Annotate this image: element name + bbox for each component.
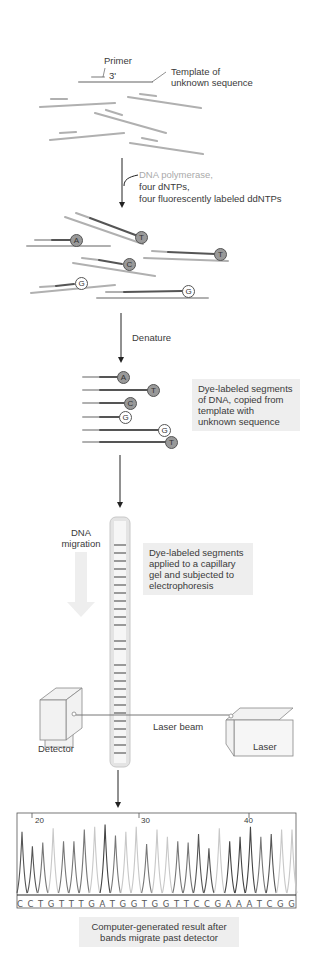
chromatogram-frame bbox=[17, 813, 296, 908]
template-leader-line bbox=[152, 72, 166, 82]
base-c: C bbox=[204, 899, 210, 909]
template-label: Template of unknown sequence bbox=[171, 66, 253, 88]
segments-caption: Dye-labeled segments of DNA, copied from… bbox=[192, 379, 300, 431]
base-t: T bbox=[69, 899, 74, 909]
tick-label-30: 30 bbox=[141, 815, 150, 826]
dye-label-c-icon: C bbox=[124, 397, 137, 410]
primer-leader-line bbox=[103, 68, 105, 77]
base-t: T bbox=[78, 899, 83, 909]
base-c: C bbox=[28, 899, 34, 909]
primer-label: Primer bbox=[104, 55, 132, 66]
base-a: A bbox=[246, 899, 252, 909]
tick-label-40: 40 bbox=[244, 815, 253, 826]
result-caption: Computer-generated result after bands mi… bbox=[79, 917, 239, 947]
base-t: T bbox=[142, 899, 147, 909]
base-g: G bbox=[288, 899, 295, 909]
dna-migration-label: DNA migration bbox=[60, 527, 102, 549]
migration-arrow-icon bbox=[67, 552, 95, 617]
dye-label-t-icon: T bbox=[147, 384, 160, 397]
base-a: A bbox=[226, 899, 232, 909]
base-c: C bbox=[193, 899, 199, 909]
denature-label: Denature bbox=[132, 332, 171, 343]
base-t: T bbox=[174, 899, 179, 909]
base-t: T bbox=[184, 899, 189, 909]
gel-bands bbox=[114, 545, 126, 753]
dye-label-g-icon: G bbox=[158, 424, 171, 437]
dye-label-a-icon: A bbox=[70, 234, 83, 247]
dye-label-g-icon: G bbox=[119, 411, 132, 424]
base-a: A bbox=[99, 899, 105, 909]
dye-label-g-icon: G bbox=[182, 285, 195, 298]
base-g: G bbox=[131, 899, 138, 909]
sanger-sequencing-diagram bbox=[0, 0, 320, 962]
base-a: A bbox=[236, 899, 242, 909]
dye-label-t-icon: T bbox=[165, 436, 178, 449]
dye-label-c-icon: C bbox=[123, 258, 136, 271]
base-g: G bbox=[277, 899, 284, 909]
electrophoresis-caption: Dye-labeled segments applied to a capill… bbox=[143, 543, 253, 595]
laser-beam-label: Laser beam bbox=[153, 721, 203, 732]
template-strands bbox=[40, 77, 203, 154]
base-t: T bbox=[110, 899, 115, 909]
primer-3prime-label: 3' bbox=[109, 70, 116, 81]
base-g: G bbox=[163, 899, 170, 909]
reagents-label: DNA polymerase, four dNTPs, four fluores… bbox=[139, 169, 282, 205]
base-c: C bbox=[267, 899, 273, 909]
laser-label: Laser bbox=[253, 741, 277, 752]
dye-label-g-icon: G bbox=[75, 277, 88, 290]
detector-icon bbox=[40, 688, 82, 747]
base-g: G bbox=[214, 899, 221, 909]
dye-label-t-icon: T bbox=[214, 248, 227, 261]
dye-label-t-icon: T bbox=[135, 231, 148, 244]
base-t: T bbox=[257, 899, 262, 909]
base-g: G bbox=[88, 899, 95, 909]
detector-label: Detector bbox=[38, 743, 74, 754]
base-g: G bbox=[120, 899, 127, 909]
base-t: T bbox=[59, 899, 64, 909]
base-g: G bbox=[48, 899, 55, 909]
extended-strands bbox=[27, 213, 228, 298]
base-sequence: CCTGTTTGATGGTGGTTCCGAAATCGG bbox=[17, 899, 295, 909]
base-c: C bbox=[17, 899, 23, 909]
base-g: G bbox=[152, 899, 159, 909]
base-t: T bbox=[38, 899, 43, 909]
tick-label-20: 20 bbox=[35, 815, 44, 826]
dye-label-a-icon: A bbox=[117, 371, 130, 384]
